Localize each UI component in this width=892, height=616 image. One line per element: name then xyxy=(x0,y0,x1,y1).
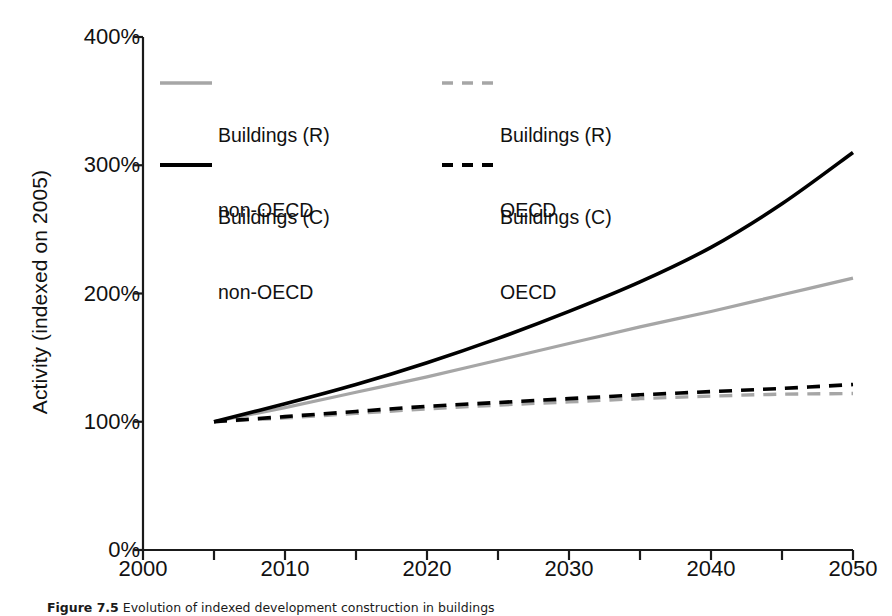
figure-caption: Figure 7.5 Evolution of indexed developm… xyxy=(47,600,495,616)
legend-label-3-line1: Buildings (C) xyxy=(500,205,612,230)
x-tick-marks xyxy=(143,550,853,560)
legend-label-3: Buildings (C) OECD xyxy=(500,155,612,355)
legend-label-0-line1: Buildings (R) xyxy=(218,123,330,148)
figure-container: Activity (indexed on 2005) 400% 300% 200… xyxy=(0,0,892,616)
figure-caption-label: Figure 7.5 xyxy=(47,600,119,615)
legend-label-2: Buildings (C) non-OECD xyxy=(218,155,330,355)
legend-label-1-line1: Buildings (R) xyxy=(500,123,612,148)
legend-label-2-line1: Buildings (C) xyxy=(218,205,330,230)
legend-label-3-line2: OECD xyxy=(500,280,612,305)
legend-label-2-line2: non-OECD xyxy=(218,280,330,305)
figure-caption-text: Evolution of indexed development constru… xyxy=(123,600,495,615)
y-tick-marks xyxy=(134,37,143,550)
plot-area xyxy=(0,0,892,616)
